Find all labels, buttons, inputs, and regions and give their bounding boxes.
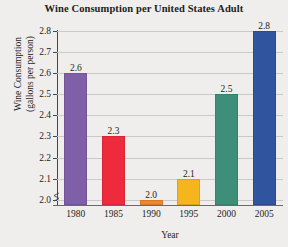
x-tick-label: 1985 xyxy=(104,209,123,219)
x-tick-label: 2005 xyxy=(255,209,274,219)
chart-title: Wine Consumption per United States Adult xyxy=(0,3,288,14)
y-tick-mark xyxy=(53,179,57,180)
gridline xyxy=(57,200,283,201)
y-tick-mark xyxy=(53,73,57,74)
gridline xyxy=(57,115,283,116)
gridline xyxy=(57,158,283,159)
x-tick-label: 1995 xyxy=(179,209,198,219)
y-tick-label: 2.4 xyxy=(39,110,51,120)
gridline xyxy=(57,179,283,180)
gridline xyxy=(57,31,283,32)
y-tick-mark xyxy=(53,158,57,159)
y-tick-label: 2.7 xyxy=(39,47,51,57)
bar: 2.1 xyxy=(177,179,200,205)
chart-figure: Wine Consumption per United States Adult… xyxy=(0,0,288,247)
bar: 2.0 xyxy=(140,200,163,205)
y-tick-mark xyxy=(53,200,57,201)
gridline xyxy=(57,52,283,53)
bar: 2.5 xyxy=(215,94,238,205)
gridline xyxy=(57,94,283,95)
bar: 2.8 xyxy=(253,31,276,205)
y-tick-label: 2.0 xyxy=(39,195,51,205)
y-axis-title-line-2: (gallons per person) xyxy=(25,0,37,149)
y-tick-label: 2.5 xyxy=(39,89,51,99)
y-tick-mark xyxy=(53,52,57,53)
gridline xyxy=(57,73,283,74)
y-tick-label: 2.6 xyxy=(39,68,51,78)
gridline xyxy=(57,136,283,137)
y-tick-label: 2.1 xyxy=(39,173,51,183)
y-axis-title: Wine Consumption (gallons per person) xyxy=(13,0,39,149)
bar-value-label: 2.0 xyxy=(145,190,157,200)
x-tick-label: 2000 xyxy=(217,209,236,219)
x-tick-label: 1990 xyxy=(142,209,161,219)
plot-area: 2.02.12.22.32.42.52.62.72.8 2.62.32.02.1… xyxy=(57,31,283,205)
y-tick-mark xyxy=(53,94,57,95)
y-tick-mark xyxy=(53,136,57,137)
bar-value-label: 2.6 xyxy=(70,63,82,73)
bar-value-label: 2.5 xyxy=(221,84,233,94)
bar-value-label: 2.8 xyxy=(258,21,270,31)
bar: 2.3 xyxy=(102,136,125,205)
y-tick-mark xyxy=(53,115,57,116)
x-axis-line xyxy=(53,205,283,206)
y-tick-label: 2.8 xyxy=(39,26,51,36)
y-tick-label: 2.2 xyxy=(39,152,51,162)
y-tick-label: 2.3 xyxy=(39,131,51,141)
bar: 2.6 xyxy=(64,73,87,205)
y-axis-title-line-1: Wine Consumption xyxy=(13,37,23,111)
bar-value-label: 2.1 xyxy=(183,169,195,179)
y-tick-mark xyxy=(53,31,57,32)
bar-value-label: 2.3 xyxy=(108,126,120,136)
x-tick-label: 1980 xyxy=(66,209,85,219)
x-axis-title: Year xyxy=(57,230,283,240)
